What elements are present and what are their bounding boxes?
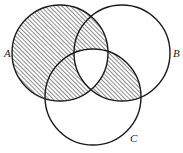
venn-diagram-canvas: A B C xyxy=(0,0,183,153)
shaded-region-group xyxy=(0,0,183,153)
set-label-b: B xyxy=(173,47,180,59)
set-label-a: A xyxy=(3,47,11,59)
venn-diagram-figure: A B C xyxy=(0,0,183,153)
set-label-c: C xyxy=(130,132,138,144)
